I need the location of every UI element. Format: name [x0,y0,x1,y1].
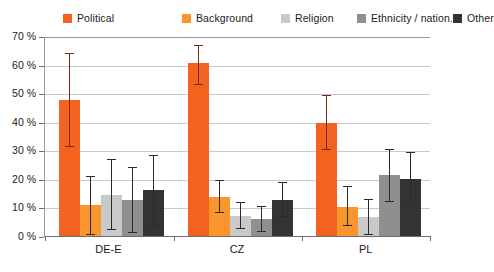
y-tick-label: 60 % [12,60,36,71]
x-tick-mark-icon [302,236,303,241]
x-tick-mark-icon [45,236,46,241]
error-bar-cap-bottom-icon [278,216,287,217]
legend-item-background: Background [182,8,253,28]
error-bar-cap-top-icon [406,152,415,153]
y-tick-label: 30 % [12,145,36,156]
bar-slot [101,37,122,236]
error-bar-cap-bottom-icon [406,206,415,207]
error-bar-cap-top-icon [322,95,331,96]
bar-group-cz [174,37,303,236]
y-tick-label: 0 % [18,231,36,242]
bar-group-de-e [45,37,174,236]
error-bar-cap-top-icon [194,45,203,46]
error-bar-cap-top-icon [343,186,352,187]
error-bar-cap-bottom-icon [343,225,352,226]
legend-swatch-icon [357,14,366,23]
bar-political [188,63,209,236]
error-bar-cap-bottom-icon [215,212,224,213]
y-tick-mark-icon [39,237,44,238]
legend-item-other: Other [453,8,494,28]
x-axis-label: PL [301,243,430,255]
error-bar-cap-bottom-icon [128,232,137,233]
x-axis-label: CZ [173,243,302,255]
bar-slot [316,37,337,236]
bar-slot [358,37,379,236]
error-bar [410,152,411,208]
legend-label: Religion [295,12,334,24]
y-tick-label: 10 % [12,202,36,213]
error-bar-cap-top-icon [257,206,266,207]
error-bar-cap-bottom-icon [65,146,74,147]
error-bar-cap-top-icon [65,53,74,54]
bar-slot [188,37,209,236]
legend-swatch-icon [453,14,462,23]
bar-slot [379,37,400,236]
bar-slot [251,37,272,236]
error-bar [389,149,390,202]
legend-label: Political [77,12,114,24]
legend-item-political: Political [63,8,114,28]
x-tick-mark-icon [174,236,175,241]
legend-swatch-icon [182,14,191,23]
error-bar [153,155,154,225]
error-bar-cap-top-icon [236,202,245,203]
error-bar [261,206,262,232]
error-bar [198,45,199,85]
x-tick-mark-icon [430,236,431,241]
y-tick-label: 50 % [12,88,36,99]
error-bar-cap-top-icon [215,180,224,181]
bar-slot [122,37,143,236]
legend-label: Background [196,12,253,24]
y-tick-label: 40 % [12,117,36,128]
error-bar [111,159,112,230]
bar-slot [59,37,80,236]
error-bar-cap-bottom-icon [257,231,266,232]
error-bar-cap-top-icon [278,182,287,183]
error-bar-cap-bottom-icon [322,149,331,150]
error-bar-cap-bottom-icon [194,84,203,85]
error-bar [282,182,283,218]
bar-slot [143,37,164,236]
bar-slot [230,37,251,236]
legend-label: Other [467,12,494,24]
error-bar [90,176,91,235]
legend-label: Ethnicity / nation. [371,12,453,24]
bar-slot [400,37,421,236]
y-tick-label: 20 % [12,174,36,185]
bar-group-pl [302,37,431,236]
error-bar-cap-top-icon [107,159,116,160]
bars-layer [45,37,430,236]
error-bar-cap-top-icon [128,167,137,168]
chart-legend: PoliticalBackgroundReligionEthnicity / n… [0,8,452,28]
error-bar-cap-bottom-icon [107,229,116,230]
error-bar-cap-top-icon [86,176,95,177]
y-tick-label: 70 % [12,31,36,42]
x-axis-label: DE-E [44,243,173,255]
error-bar [69,53,70,147]
error-bar [326,95,327,151]
error-bar-cap-top-icon [149,155,158,156]
error-bar-cap-bottom-icon [236,228,245,229]
bar-slot [337,37,358,236]
bar-slot [80,37,101,236]
bar-slot [272,37,293,236]
error-bar-cap-bottom-icon [86,234,95,235]
bar-slot [209,37,230,236]
error-bar [240,202,241,229]
legend-swatch-icon [63,14,72,23]
error-bar [219,180,220,213]
error-bar-cap-bottom-icon [364,234,373,235]
error-bar-cap-top-icon [364,199,373,200]
plot-area [44,37,430,237]
error-bar-cap-bottom-icon [149,224,158,225]
error-bar [368,199,369,235]
legend-item-ethnicity-nation: Ethnicity / nation. [357,8,453,28]
error-bar-cap-top-icon [385,149,394,150]
error-bar-cap-bottom-icon [385,201,394,202]
error-bar [347,186,348,226]
legend-swatch-icon [281,14,290,23]
legend-item-religion: Religion [281,8,334,28]
error-bar [132,167,133,233]
